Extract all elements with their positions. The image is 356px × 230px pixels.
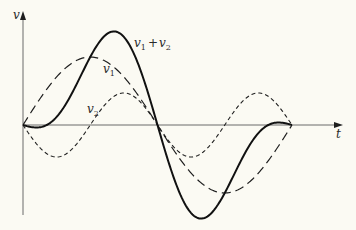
y-axis-label: v xyxy=(13,8,20,22)
y-axis-arrow-icon xyxy=(20,11,26,20)
label-sum: v1+v2 xyxy=(134,36,171,52)
waveform-diagram: v t v1 v2 v1+v2 xyxy=(0,0,356,230)
label-v1: v1 xyxy=(103,62,115,78)
label-v2: v2 xyxy=(87,102,99,118)
axes: v t xyxy=(13,8,343,215)
x-axis-label: t xyxy=(336,127,341,141)
